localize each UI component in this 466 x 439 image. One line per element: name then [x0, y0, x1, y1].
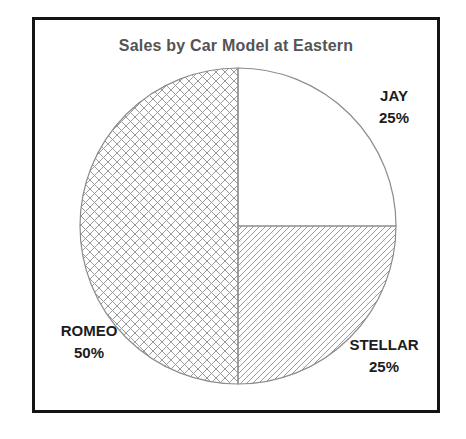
chart-canvas: Sales by Car Model at Eastern JAY 25% ST… — [0, 0, 466, 439]
slice-label-stellar: STELLAR 25% — [339, 334, 429, 378]
slice-percent: 25% — [361, 107, 427, 129]
slice-name: ROMEO — [61, 322, 118, 339]
slice-label-romeo: ROMEO 50% — [49, 320, 129, 364]
slice-percent: 25% — [339, 356, 429, 378]
slice-percent: 50% — [49, 342, 129, 364]
slice-name: STELLAR — [349, 336, 418, 353]
slice-name: JAY — [380, 87, 408, 104]
slice-label-jay: JAY 25% — [361, 85, 427, 129]
